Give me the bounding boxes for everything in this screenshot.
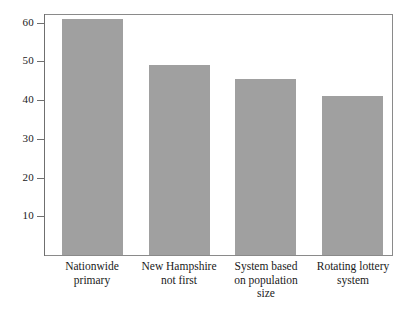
y-axis-tick-label: 50	[10, 55, 34, 66]
y-axis-tick	[37, 178, 45, 179]
x-axis-category-label-line: Rotating lottery	[304, 260, 402, 274]
x-axis-category-label-line: Nationwide	[43, 260, 141, 274]
bar	[149, 65, 210, 255]
x-axis-category-label: Nationwideprimary	[43, 260, 141, 287]
bar-chart: 102030405060 NationwideprimaryNew Hampsh…	[0, 0, 407, 311]
y-axis-tick	[37, 23, 45, 24]
x-axis-category-label-line: System based	[217, 260, 315, 274]
y-axis-tick-label: 10	[10, 210, 34, 221]
bar	[62, 19, 123, 255]
y-axis-tick-label: 60	[10, 17, 34, 28]
x-axis-category-label-line: size	[217, 287, 315, 301]
x-axis-category-label-line: on population	[217, 274, 315, 288]
x-axis-category-label-line: primary	[43, 274, 141, 288]
y-axis-tick	[37, 100, 45, 101]
y-axis-tick-label: 30	[10, 133, 34, 144]
x-axis-category-label-line: New Hampshire	[130, 260, 228, 274]
x-axis-category-label: System basedon populationsize	[217, 260, 315, 301]
y-axis-tick	[37, 216, 45, 217]
x-axis-labels: NationwideprimaryNew Hampshirenot firstS…	[45, 260, 392, 310]
x-axis-category-label: Rotating lotterysystem	[304, 260, 402, 287]
y-axis-tick	[37, 139, 45, 140]
y-axis-tick-label: 20	[10, 172, 34, 183]
bar	[322, 96, 383, 255]
y-axis-tick	[37, 61, 45, 62]
y-axis-tick-label: 40	[10, 94, 34, 105]
x-axis-category-label: New Hampshirenot first	[130, 260, 228, 287]
bars-layer	[45, 15, 392, 255]
x-axis-category-label-line: not first	[130, 274, 228, 288]
x-axis-category-label-line: system	[304, 274, 402, 288]
bar	[235, 79, 296, 255]
